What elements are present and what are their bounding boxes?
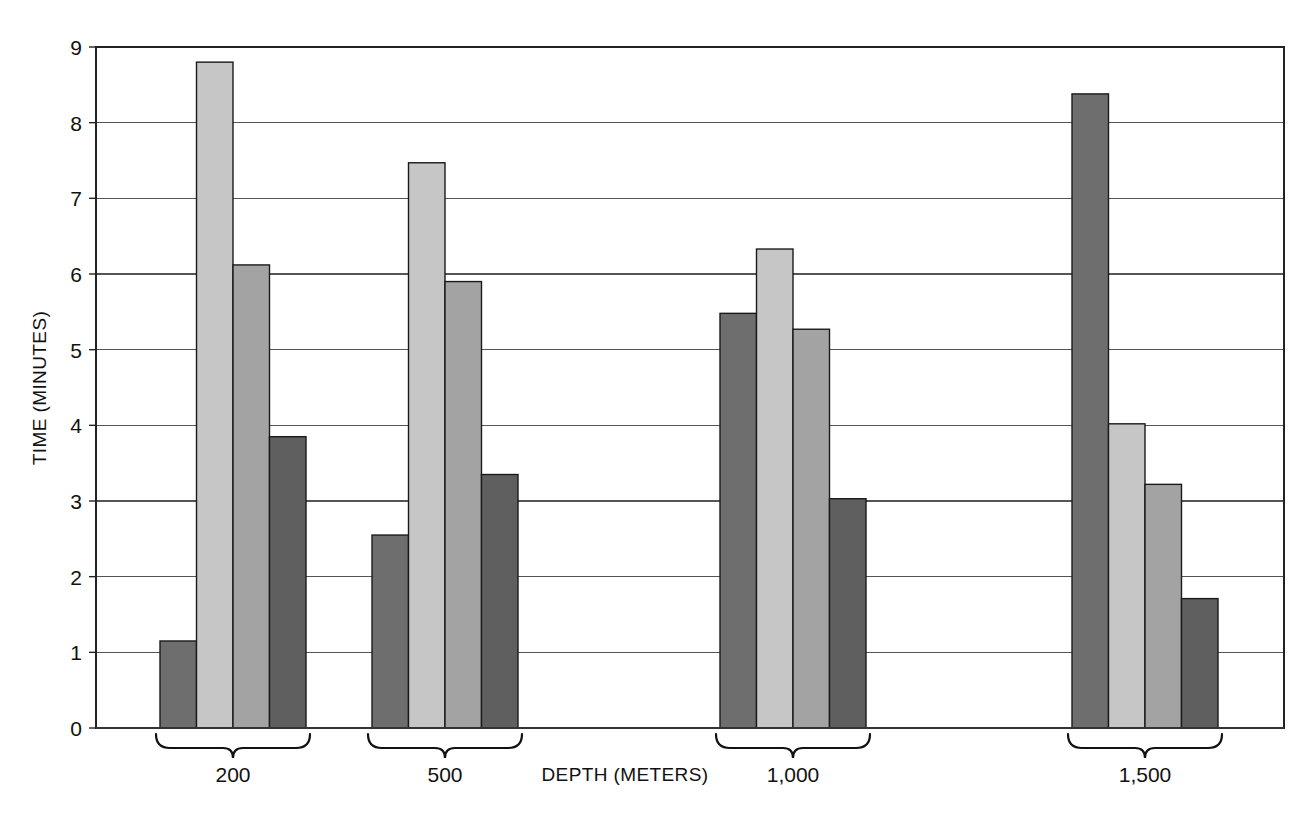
bar xyxy=(757,249,794,728)
y-tick-label: 7 xyxy=(70,187,82,210)
category-label: 500 xyxy=(427,763,462,786)
bar xyxy=(270,437,307,728)
bars xyxy=(160,62,1218,728)
y-tick-label: 1 xyxy=(70,641,82,664)
y-tick-label: 5 xyxy=(70,339,82,362)
bar xyxy=(409,163,446,728)
bar-chart: 0123456789 2005001,0001,500 DEPTH (METER… xyxy=(0,0,1309,813)
y-tick-label: 3 xyxy=(70,490,82,513)
bar xyxy=(372,535,409,728)
y-axis-ticks: 0123456789 xyxy=(70,36,96,740)
y-tick-label: 6 xyxy=(70,263,82,286)
bar xyxy=(1109,424,1146,728)
bar xyxy=(830,499,867,728)
bar xyxy=(482,475,519,728)
y-tick-label: 9 xyxy=(70,36,82,59)
bar xyxy=(1145,484,1182,728)
bar xyxy=(720,313,757,728)
group-brace xyxy=(368,734,522,758)
y-tick-label: 4 xyxy=(70,414,82,437)
bar xyxy=(197,62,234,728)
y-tick-label: 8 xyxy=(70,112,82,135)
group-braces xyxy=(156,734,1222,758)
bar xyxy=(445,282,482,728)
group-brace xyxy=(716,734,870,758)
bar xyxy=(160,641,197,728)
group-brace xyxy=(156,734,310,758)
category-label: 1,500 xyxy=(1119,763,1172,786)
group-brace xyxy=(1068,734,1222,758)
bar xyxy=(1072,94,1109,728)
bar xyxy=(233,265,270,728)
x-axis-title: DEPTH (METERS) xyxy=(541,764,708,785)
category-label: 1,000 xyxy=(767,763,820,786)
y-axis-title: TIME (MINUTES) xyxy=(29,311,50,465)
bar xyxy=(793,329,830,728)
chart-container: 0123456789 2005001,0001,500 DEPTH (METER… xyxy=(0,0,1309,813)
bar xyxy=(1182,599,1219,728)
y-tick-label: 2 xyxy=(70,566,82,589)
category-label: 200 xyxy=(215,763,250,786)
y-tick-label: 0 xyxy=(70,717,82,740)
